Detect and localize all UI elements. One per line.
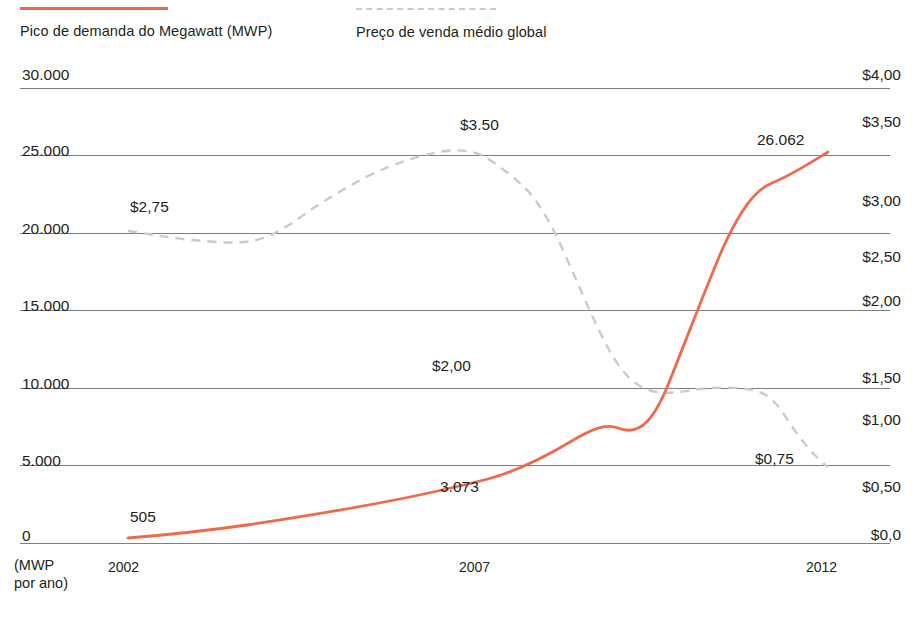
x-axis-tick: 2012 [806,559,837,575]
annotation-price-2-00: $2,00 [432,357,471,375]
annotation-mwp-26062: 26.062 [757,131,804,149]
chart-container: Pico de demanda do Megawatt (MWP) Preço … [0,0,919,619]
y-axis-unit-caption: (MWP por ano) [14,556,68,592]
annotation-price-3-50: $3.50 [460,116,499,134]
x-axis-tick: 2002 [108,559,139,575]
annotation-mwp-3073: 3.073 [440,478,479,496]
annotation-price-0-75: $0,75 [755,450,794,468]
annotation-price-2-75: $2,75 [130,198,169,216]
x-axis-tick: 2007 [459,559,490,575]
price-line-series [128,150,828,467]
series-layer [0,0,919,619]
annotation-mwp-505: 505 [130,508,156,526]
plot-area: 30.000 25.000 20.000 15.000 10.000 5.000… [0,0,919,619]
